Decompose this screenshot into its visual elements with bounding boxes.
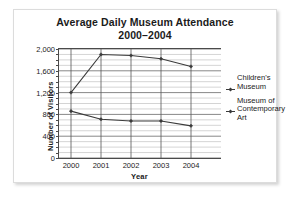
plot-area: 04008001,2001,6002,000 20002001200220032… bbox=[58, 48, 221, 159]
chart-figure-frame: Average Daily Museum Attendance 2000–200… bbox=[13, 9, 277, 183]
series-marker-1-1 bbox=[99, 118, 103, 122]
y-tick-mark bbox=[56, 114, 59, 115]
x-tick-label: 2001 bbox=[93, 161, 110, 170]
legend-label: Children's Museum bbox=[237, 74, 286, 92]
y-tick-mark bbox=[56, 131, 59, 132]
y-tick-mark bbox=[56, 158, 59, 159]
y-tick-label: 0 bbox=[51, 154, 55, 163]
series-marker-1-0 bbox=[69, 109, 73, 113]
x-tick-label: 2000 bbox=[63, 161, 80, 170]
legend-entry[interactable]: Children's Museum bbox=[226, 74, 286, 92]
chart-series-lines bbox=[59, 49, 221, 158]
y-tick-mark bbox=[56, 98, 59, 99]
series-marker-1-3 bbox=[159, 119, 163, 123]
y-tick-mark bbox=[56, 125, 59, 126]
series-marker-0-3 bbox=[159, 57, 163, 61]
y-tick-label: 2,000 bbox=[36, 45, 55, 54]
legend-marker-icon bbox=[226, 100, 235, 105]
y-tick-mark bbox=[56, 120, 59, 121]
series-line-1 bbox=[71, 111, 191, 126]
y-tick-mark bbox=[56, 153, 59, 154]
series-marker-0-4 bbox=[189, 65, 193, 69]
x-axis-title: Year bbox=[58, 172, 221, 181]
y-tick-mark bbox=[56, 142, 59, 143]
y-tick-mark bbox=[56, 60, 59, 61]
x-tick-label: 2003 bbox=[153, 161, 170, 170]
legend-entry[interactable]: Museum of Contemporary Art bbox=[226, 97, 286, 123]
chart-legend: Children's Museum Museum of Contemporary… bbox=[226, 74, 286, 128]
y-tick-label: 800 bbox=[42, 110, 55, 119]
series-marker-1-2 bbox=[129, 119, 133, 123]
y-tick-mark bbox=[56, 109, 59, 110]
y-tick-mark bbox=[56, 147, 59, 148]
y-tick-mark bbox=[56, 54, 59, 55]
y-tick-mark bbox=[56, 136, 59, 137]
y-tick-mark bbox=[56, 71, 59, 72]
series-line-0 bbox=[71, 54, 191, 92]
legend-label: Museum of Contemporary Art bbox=[237, 97, 286, 123]
y-tick-mark bbox=[56, 93, 59, 94]
y-tick-mark bbox=[56, 104, 59, 105]
chart-title: Average Daily Museum Attendance 2000–200… bbox=[14, 16, 276, 41]
series-marker-0-2 bbox=[129, 54, 133, 58]
y-tick-mark bbox=[56, 65, 59, 66]
y-tick-mark bbox=[56, 87, 59, 88]
series-marker-1-4 bbox=[189, 124, 193, 128]
chart-title-subtitle: 2000–2004 bbox=[14, 29, 276, 42]
y-tick-mark bbox=[56, 82, 59, 83]
legend-marker-icon bbox=[226, 78, 235, 83]
y-tick-label: 1,600 bbox=[36, 66, 55, 75]
chart-title-main: Average Daily Museum Attendance bbox=[56, 16, 233, 28]
y-tick-mark bbox=[56, 49, 59, 50]
screenshot-root: Average Daily Museum Attendance 2000–200… bbox=[0, 0, 303, 201]
x-tick-label: 2002 bbox=[123, 161, 140, 170]
y-tick-mark bbox=[56, 76, 59, 77]
y-tick-label: 400 bbox=[42, 132, 55, 141]
x-tick-label: 2004 bbox=[183, 161, 200, 170]
y-tick-label: 1,200 bbox=[36, 88, 55, 97]
